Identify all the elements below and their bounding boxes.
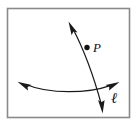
- figure-background: [0, 0, 138, 125]
- geometry-figure: P ℓ: [0, 0, 138, 125]
- figure-canvas: P ℓ: [0, 0, 138, 125]
- line-label-l: ℓ: [111, 90, 117, 106]
- point-label-p: P: [92, 40, 101, 55]
- point-p: [84, 45, 89, 50]
